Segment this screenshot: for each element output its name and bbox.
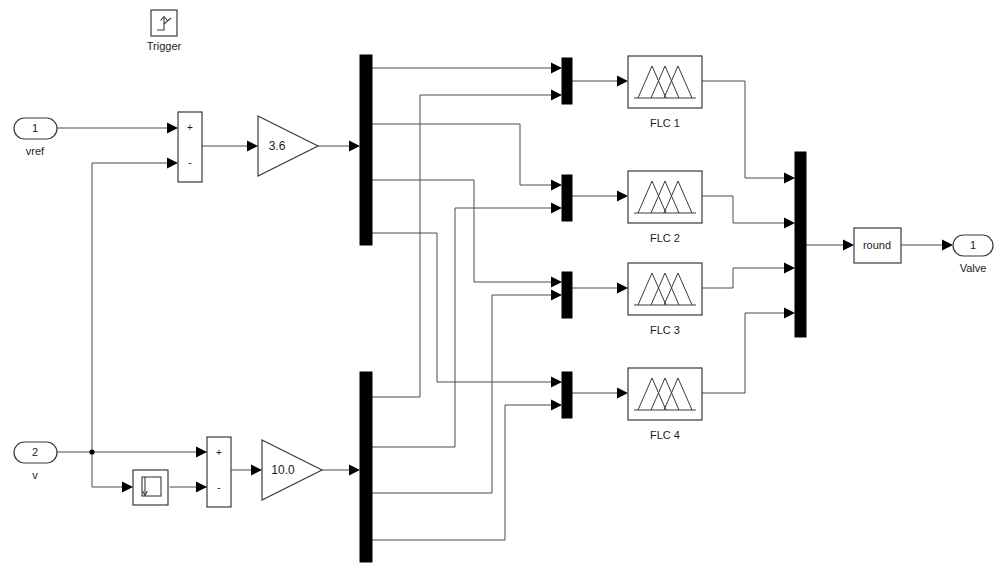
sum-v-delay-input-arrow-2: [196, 482, 207, 493]
demux-upper[interactable]: [360, 55, 372, 245]
trigger-block[interactable]: [151, 10, 177, 36]
signal-branch-point-v: [89, 449, 94, 454]
sum-vref-v-sign-plus: +: [187, 122, 193, 133]
inport-v[interactable]: 2: [14, 442, 57, 463]
unit-delay-input-arrow: [122, 482, 133, 493]
mux-flc-4-input-arrow-2: [551, 400, 562, 411]
flc-block-1[interactable]: [628, 56, 702, 108]
round-block-label: round: [863, 239, 891, 251]
flc-block-2-input-arrow: [617, 191, 628, 202]
flc-block-4-input-arrow: [617, 388, 628, 399]
mux-flc-3[interactable]: [562, 272, 572, 318]
outport-valve-input-arrow: [942, 240, 953, 251]
mux-flc-4-input-arrow-1: [551, 377, 562, 388]
mux-flc-2-input-arrow-2: [551, 203, 562, 214]
mux-flc-4[interactable]: [562, 372, 572, 418]
round-block[interactable]: round: [854, 228, 901, 263]
flc-block-2-label: FLC 2: [650, 232, 680, 244]
mux-flc-1[interactable]: [562, 58, 572, 104]
mux-output-input-arrow-3: [784, 263, 795, 274]
flc-block-3[interactable]: [628, 263, 702, 315]
sum-vref-v-input-arrow-2: [167, 158, 178, 169]
demux-upper-input-arrow: [349, 141, 360, 152]
outport-valve[interactable]: 1: [953, 235, 993, 256]
mux-flc-2[interactable]: [562, 175, 572, 221]
mux-flc-1-input-arrow-2: [551, 90, 562, 101]
inport-v-number: 2: [32, 446, 38, 458]
mux-output-input-arrow-4: [784, 308, 795, 319]
flc-block-2[interactable]: [628, 171, 702, 223]
inport-vref-label: vref: [26, 145, 45, 157]
flc-block-3-label: FLC 3: [650, 324, 680, 336]
flc-block-4[interactable]: [628, 368, 702, 420]
sum-vref-v[interactable]: + -: [178, 112, 202, 182]
gain-upper[interactable]: 3.6: [258, 116, 318, 176]
mux-output[interactable]: [795, 152, 806, 337]
trigger-label: Trigger: [147, 40, 182, 52]
mux-flc-2-input-arrow-1: [551, 180, 562, 191]
demux-lower[interactable]: [360, 372, 372, 562]
round-block-input-arrow: [843, 240, 854, 251]
simulink-diagram-canvas: Trigger 1 vref 2 v + - 3.6: [0, 0, 1003, 576]
unit-delay-block[interactable]: [133, 470, 168, 505]
gain-upper-value: 3.6: [269, 139, 286, 153]
mux-output-input-arrow-2: [784, 218, 795, 229]
flc-block-1-label: FLC 1: [650, 117, 680, 129]
mux-flc-3-input-arrow-2: [551, 290, 562, 301]
sum-v-delay-sign-minus: -: [217, 482, 220, 493]
outport-valve-label: Valve: [960, 262, 987, 274]
flc-block-4-label: FLC 4: [650, 429, 680, 441]
flc-block-3-input-arrow: [617, 283, 628, 294]
gain-lower-value: 10.0: [271, 463, 295, 477]
mux-flc-3-input-arrow-1: [551, 277, 562, 288]
sum-vref-v-sign-minus: -: [188, 157, 191, 168]
inport-vref[interactable]: 1: [14, 118, 57, 139]
outport-valve-number: 1: [970, 239, 976, 251]
mux-flc-1-input-arrow-1: [551, 63, 562, 74]
inport-v-label: v: [32, 469, 38, 481]
flc-block-1-input-arrow: [617, 76, 628, 87]
gain-lower-input-arrow: [251, 465, 262, 476]
gain-lower[interactable]: 10.0: [262, 440, 322, 500]
sum-v-delay[interactable]: + -: [207, 437, 231, 507]
sum-v-delay-sign-plus: +: [216, 447, 222, 458]
demux-lower-input-arrow: [349, 465, 360, 476]
mux-output-input-arrow-1: [784, 173, 795, 184]
sum-vref-v-input-arrow-1: [167, 123, 178, 134]
gain-upper-input-arrow: [247, 141, 258, 152]
inport-vref-number: 1: [32, 122, 38, 134]
sum-v-delay-input-arrow-1: [196, 447, 207, 458]
